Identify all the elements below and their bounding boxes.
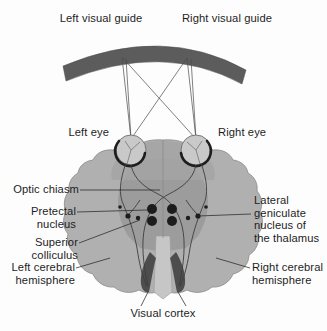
label-right-cerebral-hemisphere: Right cerebral hemisphere <box>252 261 327 286</box>
label-visual-cortex: Visual cortex <box>113 307 213 320</box>
pretectal-nucleus-right <box>167 204 177 214</box>
label-pretectal-nucleus: Pretectal nucleus <box>1 205 76 230</box>
pretectal-nucleus-left <box>147 204 157 214</box>
label-lateral-geniculate-nucleus: Lateral geniculate nucleus of the thalam… <box>254 194 327 244</box>
eye-right <box>181 135 211 166</box>
lgn-dot-left-small <box>118 205 122 209</box>
lgn-dot-right-inner <box>186 216 190 220</box>
visual-guide-bar <box>63 46 246 84</box>
lgn-dot-left-outer <box>125 213 130 218</box>
superior-colliculus-right <box>167 216 177 226</box>
brain-stem <box>154 236 172 299</box>
label-right-eye: Right eye <box>218 126 298 139</box>
superior-colliculus-left <box>147 216 157 226</box>
label-left-eye: Left eye <box>34 126 109 139</box>
visual-pathway-diagram: Left visual guide Right visual guide Lef… <box>0 0 327 331</box>
lgn-dot-left-inner <box>136 216 140 220</box>
label-right-visual-guide: Right visual guide <box>168 12 286 25</box>
lgn-dot-right-small <box>204 205 208 209</box>
label-superior-colliculus: Superior colliculus <box>1 236 78 261</box>
label-left-visual-guide: Left visual guide <box>46 12 156 25</box>
label-left-cerebral-hemisphere: Left cerebral hemisphere <box>1 261 75 286</box>
visual-ray-lines <box>122 57 196 139</box>
brain-outline <box>64 140 263 299</box>
eye-left <box>115 135 146 166</box>
label-optic-chiasm: Optic chiasm <box>1 183 79 196</box>
